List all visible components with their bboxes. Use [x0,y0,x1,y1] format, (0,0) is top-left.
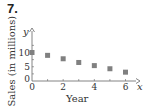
axes: 02460510xy [19,26,143,92]
scatter-plot: 02460510xy [0,0,148,111]
x-tick-label: 4 [91,82,97,92]
y-tick-label: 0 [24,74,30,84]
x-variable-label: x [137,81,143,92]
y-tick-label: 5 [24,62,30,72]
data-point [107,66,112,71]
data-point [92,63,97,68]
x-tick-label: 2 [60,82,66,92]
data-points [30,50,129,75]
data-point [45,53,50,58]
data-point [123,70,128,75]
data-point [76,60,81,65]
data-point [30,50,35,55]
y-tick-label: 10 [19,48,31,58]
x-tick-label: 6 [123,82,129,92]
x-tick-label: 0 [29,82,35,92]
data-point [61,56,66,61]
y-variable-label: y [22,26,29,37]
